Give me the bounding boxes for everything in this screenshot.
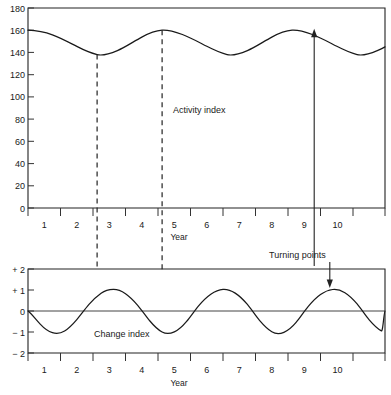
activity-y-ticks bbox=[28, 8, 34, 208]
activity-x-ticks bbox=[28, 208, 385, 216]
y-tick-label: − 2 bbox=[12, 349, 25, 359]
x-tick-label: 4 bbox=[139, 220, 144, 230]
y-tick-label: + 1 bbox=[12, 286, 25, 296]
x-tick-label: 2 bbox=[74, 365, 79, 375]
change-index-label: Change index bbox=[94, 329, 150, 339]
change-x-ticks bbox=[28, 353, 385, 361]
x-tick-label: 1 bbox=[42, 365, 47, 375]
x-tick-label: 7 bbox=[237, 220, 242, 230]
activity-y-tick-labels: 180 160 140 120 100 80 60 40 20 0 bbox=[10, 4, 25, 214]
x-tick-label: 5 bbox=[172, 220, 177, 230]
y-tick-label: 60 bbox=[15, 137, 25, 147]
turning-points-label: Turning points bbox=[269, 250, 326, 260]
activity-index-curve bbox=[28, 30, 385, 55]
y-tick-label: 100 bbox=[10, 92, 25, 102]
y-tick-label: 80 bbox=[15, 115, 25, 125]
y-tick-label: 0 bbox=[20, 307, 25, 317]
x-tick-label: 10 bbox=[332, 365, 342, 375]
x-tick-label: 6 bbox=[204, 220, 209, 230]
change-y-tick-labels: + 2 + 1 0 − 1 − 2 bbox=[12, 265, 25, 359]
change-x-axis-title: Year bbox=[170, 378, 187, 388]
figure-canvas: 180 160 140 120 100 80 60 40 20 0 bbox=[0, 0, 391, 395]
y-tick-label: 120 bbox=[10, 70, 25, 80]
x-tick-label: 9 bbox=[302, 365, 307, 375]
x-tick-label: 8 bbox=[269, 365, 274, 375]
turning-point-arrow-down bbox=[327, 262, 333, 288]
arrow-up-head bbox=[311, 29, 317, 37]
arrow-down-head bbox=[327, 280, 333, 288]
y-tick-label: 160 bbox=[10, 26, 25, 36]
y-tick-label: 0 bbox=[20, 204, 25, 214]
turning-point-arrow-up bbox=[311, 29, 317, 266]
y-tick-label: 20 bbox=[15, 181, 25, 191]
y-tick-label: − 1 bbox=[12, 328, 25, 338]
change-x-tick-labels: 1 2 3 4 5 6 7 8 9 10 bbox=[42, 365, 343, 375]
x-tick-label: 3 bbox=[107, 220, 112, 230]
x-tick-label: 8 bbox=[269, 220, 274, 230]
y-tick-label: 180 bbox=[10, 4, 25, 14]
x-tick-label: 10 bbox=[332, 220, 342, 230]
turning-point-guides bbox=[97, 30, 162, 270]
panel-activity-index: 180 160 140 120 100 80 60 40 20 0 bbox=[10, 4, 385, 243]
x-tick-label: 3 bbox=[107, 365, 112, 375]
activity-x-axis-title: Year bbox=[170, 232, 187, 242]
activity-index-label: Activity index bbox=[173, 105, 226, 115]
y-tick-label: 140 bbox=[10, 48, 25, 58]
x-tick-label: 9 bbox=[302, 220, 307, 230]
y-tick-label: + 2 bbox=[12, 265, 25, 275]
dual-panel-chart: 180 160 140 120 100 80 60 40 20 0 bbox=[0, 0, 391, 395]
x-tick-label: 1 bbox=[42, 220, 47, 230]
x-tick-label: 7 bbox=[237, 365, 242, 375]
y-tick-label: 40 bbox=[15, 159, 25, 169]
activity-x-tick-labels: 1 2 3 4 5 6 7 8 9 10 bbox=[42, 220, 343, 230]
x-tick-label: 6 bbox=[204, 365, 209, 375]
x-tick-label: 4 bbox=[139, 365, 144, 375]
x-tick-label: 2 bbox=[74, 220, 79, 230]
x-tick-label: 5 bbox=[172, 365, 177, 375]
